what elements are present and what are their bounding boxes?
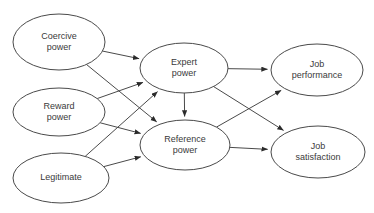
node-label-reward: power: [47, 112, 72, 122]
node-label-job_performance: Job: [310, 59, 325, 69]
diagram-canvas: CoercivepowerRewardpowerLegitimateExpert…: [0, 0, 374, 213]
edge-expert-to-job_performance: [228, 69, 268, 70]
node-job_performance[interactable]: Jobperformance: [271, 44, 363, 96]
node-label-job_satisfaction: satisfaction: [295, 152, 340, 162]
node-label-reward: Reward: [43, 101, 74, 111]
node-legitimate[interactable]: Legitimate: [13, 153, 109, 203]
edge-reward-to-expert: [97, 82, 143, 98]
node-layer: CoercivepowerRewardpowerLegitimateExpert…: [13, 14, 365, 203]
node-label-reference: Reference: [164, 134, 206, 144]
edge-legitimate-to-reference: [104, 157, 141, 167]
node-label-coercive: power: [47, 42, 72, 52]
node-label-expert: power: [172, 68, 197, 78]
diagram-svg: CoercivepowerRewardpowerLegitimateExpert…: [0, 0, 374, 213]
edge-reference-to-job_satisfaction: [230, 147, 268, 149]
node-label-expert: Expert: [171, 57, 198, 67]
edge-reference-to-job_performance: [216, 90, 281, 127]
node-label-job_satisfaction: Job: [311, 141, 326, 151]
node-label-coercive: Coercive: [41, 31, 77, 41]
edge-coercive-to-expert: [103, 51, 140, 59]
node-label-job_performance: performance: [292, 70, 343, 80]
node-label-reference: power: [173, 145, 198, 155]
node-reference[interactable]: Referencepower: [140, 120, 230, 170]
node-job_satisfaction[interactable]: Jobsatisfaction: [271, 126, 365, 178]
node-expert[interactable]: Expertpower: [140, 43, 228, 93]
node-coercive[interactable]: Coercivepower: [13, 14, 105, 70]
node-reward[interactable]: Rewardpower: [13, 88, 105, 136]
node-label-legitimate: Legitimate: [40, 172, 82, 182]
